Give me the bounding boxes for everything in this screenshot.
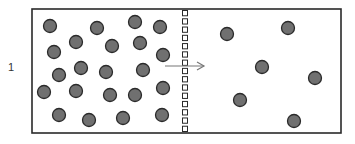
particle-right bbox=[221, 28, 234, 41]
membrane-pore bbox=[183, 27, 188, 32]
membrane-pore bbox=[183, 101, 188, 106]
particle-left bbox=[157, 49, 170, 62]
membrane-pore bbox=[183, 118, 188, 123]
particle-left bbox=[91, 22, 104, 35]
particle-right bbox=[234, 94, 247, 107]
membrane-pore bbox=[183, 11, 188, 16]
membrane-pore bbox=[183, 35, 188, 40]
membrane-pore bbox=[183, 44, 188, 49]
diffusion-diagram bbox=[0, 0, 355, 144]
particle-left bbox=[75, 62, 88, 75]
particle-left bbox=[157, 82, 170, 95]
particle-left bbox=[106, 40, 119, 53]
membrane bbox=[183, 11, 188, 132]
membrane-pore bbox=[183, 126, 188, 131]
particle-right bbox=[309, 72, 322, 85]
particle-left bbox=[134, 37, 147, 50]
membrane-pore bbox=[183, 19, 188, 24]
membrane-pore bbox=[183, 52, 188, 57]
particle-left bbox=[154, 21, 167, 34]
particle-left bbox=[48, 46, 61, 59]
particle-left bbox=[70, 85, 83, 98]
particle-left bbox=[83, 114, 96, 127]
particle-left bbox=[104, 89, 117, 102]
particle-left bbox=[137, 64, 150, 77]
membrane-pore bbox=[183, 68, 188, 73]
membrane-pore bbox=[183, 93, 188, 98]
membrane-pore bbox=[183, 110, 188, 115]
particle-left bbox=[117, 112, 130, 125]
membrane-pore bbox=[183, 85, 188, 90]
particle-left bbox=[53, 69, 66, 82]
particle-left bbox=[156, 109, 169, 122]
particle-right bbox=[288, 115, 301, 128]
particle-left bbox=[53, 109, 66, 122]
particle-left bbox=[129, 16, 142, 29]
particle-left bbox=[44, 20, 57, 33]
membrane-pore bbox=[183, 60, 188, 65]
particle-left bbox=[100, 66, 113, 79]
particle-right bbox=[282, 22, 295, 35]
particle-right bbox=[256, 61, 269, 74]
particle-left bbox=[38, 86, 51, 99]
particles bbox=[38, 16, 322, 128]
particle-left bbox=[129, 89, 142, 102]
membrane-pore bbox=[183, 77, 188, 82]
particle-left bbox=[70, 36, 83, 49]
